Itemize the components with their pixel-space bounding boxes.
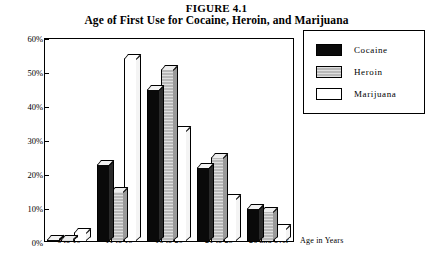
legend-item-cocaine: Cocaine	[316, 39, 424, 61]
legend-label-cocaine: Cocaine	[354, 45, 388, 55]
bar-heroin	[61, 239, 74, 242]
bar-cocaine	[47, 239, 60, 242]
bar-group	[245, 39, 295, 242]
bar-side-face	[173, 65, 178, 241]
bar-side-face	[159, 86, 164, 241]
chart-title: Age of First Use for Cocaine, Heroin, an…	[0, 14, 433, 27]
bar-group	[145, 39, 195, 242]
chart-canvas: 60%50%40%30%20%10%0% 6 to 1011 to 1516 t…	[0, 30, 433, 272]
figure-number: FIGURE 4.1	[0, 2, 433, 14]
y-tick-label: 10%	[23, 205, 43, 213]
legend-swatch-heroin	[316, 66, 342, 78]
y-tick-label: 50%	[23, 69, 43, 77]
plot-area: 60%50%40%30%20%10%0%	[44, 38, 294, 242]
legend-label-heroin: Heroin	[354, 67, 383, 77]
y-tick-label: 0%	[23, 239, 43, 247]
bar-cocaine	[247, 208, 260, 242]
bar-side-face	[136, 55, 141, 241]
bar-groups	[45, 39, 294, 242]
bar-group	[95, 39, 145, 242]
legend-swatch-cocaine	[316, 44, 342, 56]
legend: Cocaine Heroin Marijuana	[303, 30, 425, 114]
y-tick-label: 60%	[23, 35, 43, 43]
y-tick-label: 30%	[23, 137, 43, 145]
bar-cocaine	[197, 167, 210, 242]
y-tick-label: 40%	[23, 103, 43, 111]
bar-side-face	[223, 154, 228, 241]
bar-side-face	[236, 195, 241, 241]
bar-cocaine	[147, 89, 160, 242]
x-axis-title: Age in Years	[300, 236, 344, 245]
bar-side-face	[273, 208, 278, 241]
bar-group	[45, 39, 95, 242]
bar-cocaine	[97, 164, 110, 242]
legend-item-heroin: Heroin	[316, 61, 424, 83]
bar-side-face	[209, 164, 214, 241]
bar-side-face	[123, 188, 128, 241]
bar-side-face	[259, 205, 264, 241]
bar-group	[195, 39, 245, 242]
bar-side-face	[186, 127, 191, 241]
legend-swatch-marijuana	[316, 88, 342, 100]
bar-side-face	[109, 161, 114, 241]
y-tick-label: 20%	[23, 171, 43, 179]
legend-item-marijuana: Marijuana	[316, 83, 424, 105]
legend-label-marijuana: Marijuana	[354, 89, 396, 99]
